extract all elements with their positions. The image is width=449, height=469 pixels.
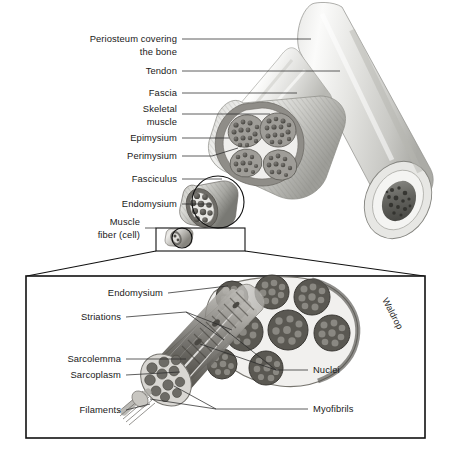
label-endomysium-detail-text: Endomysium bbox=[108, 287, 163, 298]
fiber-xsection bbox=[249, 351, 283, 385]
label-periosteum-line2: the bone bbox=[140, 46, 177, 57]
label-striations-text: Striations bbox=[81, 311, 121, 322]
label-nuclei-text: Nuclei bbox=[313, 364, 340, 375]
fiber-xsection bbox=[314, 315, 350, 351]
label-fasciculus-text: Fasciculus bbox=[132, 173, 177, 184]
label-tendon-text: Tendon bbox=[146, 65, 177, 76]
label-muscle-fiber-line2: fiber (cell) bbox=[98, 229, 140, 240]
label-fascia-text: Fascia bbox=[149, 87, 178, 98]
label-muscle-fiber-line1: Muscle bbox=[110, 216, 140, 227]
label-endomysium-upper-text: Endomysium bbox=[122, 198, 177, 209]
label-filaments-text: Filaments bbox=[79, 404, 121, 415]
label-skeletal-muscle-line2: muscle bbox=[147, 116, 177, 127]
label-perimysium-text: Perimysium bbox=[127, 150, 177, 161]
fiber-xsection bbox=[268, 310, 308, 350]
label-periosteum-line1: Periosteum covering bbox=[90, 33, 177, 44]
label-skeletal-muscle-line1: Skeletal bbox=[143, 103, 177, 114]
anatomy-figure: Periosteum covering the bone Tendon Fasc… bbox=[0, 0, 449, 469]
label-sarcoplasm-text: Sarcoplasm bbox=[71, 369, 122, 380]
label-epimysium-text: Epimysium bbox=[130, 132, 177, 143]
label-sarcolemma-text: Sarcolemma bbox=[67, 353, 121, 364]
label-myofibrils-text: Myofibrils bbox=[313, 403, 354, 414]
